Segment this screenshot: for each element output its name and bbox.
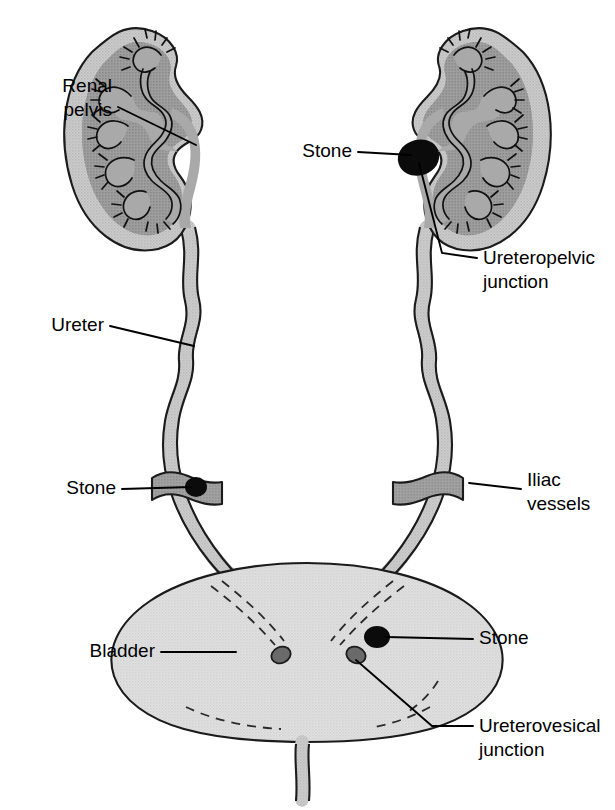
label-stone-upj-line1: Stone bbox=[302, 140, 352, 161]
label-upj-line2: junction bbox=[482, 271, 549, 292]
label-bladder: Bladder bbox=[90, 640, 156, 661]
urinary-tract-illustration: Renal pelvis Stone Ureteropelvic junctio… bbox=[0, 0, 615, 810]
label-ureter-line1: Ureter bbox=[51, 314, 104, 335]
label-stone-bladder-line1: Stone bbox=[479, 627, 529, 648]
label-upj-line1: Ureteropelvic bbox=[483, 247, 595, 268]
label-renal-pelvis-line1: Renal bbox=[62, 75, 112, 96]
label-stone-bladder: Stone bbox=[479, 627, 529, 648]
label-uvj-line1: Ureterovesical bbox=[479, 715, 600, 736]
label-uvj-line2: junction bbox=[478, 739, 545, 760]
label-iliac-line1: Iliac bbox=[527, 469, 561, 490]
urethra bbox=[295, 742, 309, 801]
label-bladder-line1: Bladder bbox=[90, 640, 156, 661]
label-ureter: Ureter bbox=[51, 314, 104, 335]
label-iliac-line2: vessels bbox=[527, 493, 590, 514]
label-renal-pelvis-line2: pelvis bbox=[63, 99, 112, 120]
label-stone-iliac-line1: Stone bbox=[66, 477, 116, 498]
diagram-canvas: Renal pelvis Stone Ureteropelvic junctio… bbox=[0, 0, 615, 810]
label-stone-iliac: Stone bbox=[66, 477, 116, 498]
label-stone-upj: Stone bbox=[302, 140, 352, 161]
